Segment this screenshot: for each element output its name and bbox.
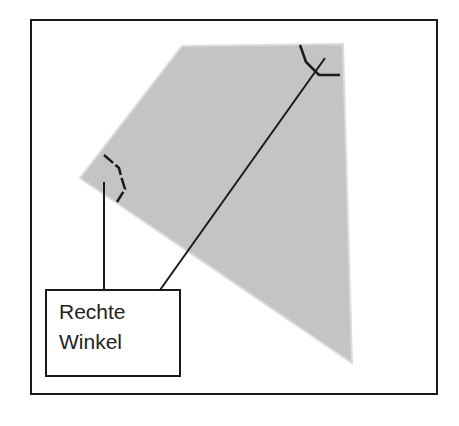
label-line-1: Rechte bbox=[59, 297, 179, 327]
label-box: Rechte Winkel bbox=[45, 289, 181, 377]
label-line-2: Winkel bbox=[59, 327, 179, 357]
